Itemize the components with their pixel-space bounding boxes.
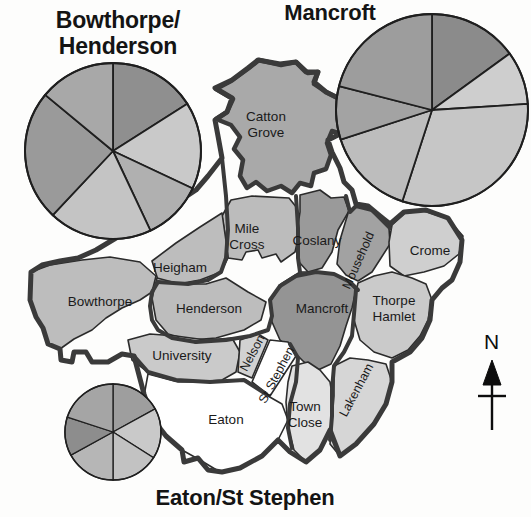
- figure-root: Bowthorpe/ Henderson Mancroft Eaton/St S…: [0, 0, 531, 517]
- compass-arrow-icon: [0, 0, 531, 517]
